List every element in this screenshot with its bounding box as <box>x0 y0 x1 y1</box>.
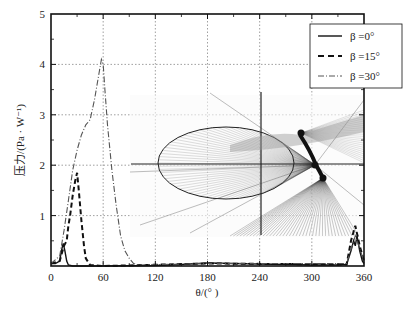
x-axis-title: θ/(° ) <box>196 286 219 299</box>
x-tick-label: 240 <box>251 271 268 283</box>
y-tick-label: 2 <box>40 159 46 171</box>
x-tick-labels: 060120180240300360 <box>48 271 373 283</box>
legend-label-beta15: β =15° <box>350 50 380 62</box>
pressure-chart: 060120180240300360 12345 θ/(° ) 压力/(Pa ·… <box>0 0 414 311</box>
legend-label-beta0: β =0° <box>350 30 374 42</box>
y-tick-label: 5 <box>40 8 46 20</box>
x-tick-label: 120 <box>147 271 164 283</box>
y-tick-label: 3 <box>40 109 46 121</box>
y-axis-title: 压力/(Pa · W⁻¹) <box>14 104 27 176</box>
y-tick-label: 4 <box>40 58 46 70</box>
legend: β =0° β =15° β =30° <box>310 24 402 88</box>
y-tick-label: 1 <box>40 210 46 222</box>
ray-geometry-inset <box>130 92 364 237</box>
x-tick-label: 300 <box>304 271 321 283</box>
y-tick-labels: 12345 <box>40 8 46 222</box>
x-tick-label: 180 <box>199 271 216 283</box>
x-tick-label: 60 <box>98 271 110 283</box>
x-tick-label: 0 <box>48 271 54 283</box>
legend-label-beta30: β =30° <box>350 70 380 82</box>
x-tick-label: 360 <box>356 271 373 283</box>
